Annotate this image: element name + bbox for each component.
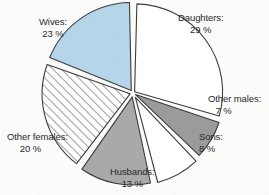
slice-label-husbands: Husbands: 13 %: [110, 166, 155, 189]
slice-label-wives-name: Wives:: [39, 16, 67, 27]
slice-label-husbands-name: Husbands:: [110, 166, 155, 177]
slice-label-other-females: Other females: 20 %: [7, 131, 68, 154]
slice-label-wives-value: 23 %: [39, 28, 67, 40]
slice-label-daughters: Daughters: 29 %: [178, 12, 223, 35]
slice-label-other-males-value: 7 %: [208, 105, 261, 117]
pie-chart-figure: Daughters: 29 % Other males: 7 % Sons: 8…: [0, 0, 269, 195]
slice-label-other-females-name: Other females:: [7, 131, 68, 142]
slice-label-sons-value: 8 %: [199, 143, 225, 155]
slice-label-wives: Wives: 23 %: [39, 16, 67, 39]
slice-label-daughters-value: 29 %: [178, 24, 223, 36]
slice-label-other-males: Other males: 7 %: [208, 93, 261, 116]
slice-label-other-males-name: Other males:: [208, 93, 261, 104]
slice-label-daughters-name: Daughters:: [178, 12, 223, 23]
slice-label-sons: Sons: 8 %: [199, 131, 225, 154]
slice-label-other-females-value: 20 %: [7, 143, 68, 155]
slice-label-sons-name: Sons:: [199, 131, 223, 142]
slice-label-husbands-value: 13 %: [110, 178, 155, 190]
